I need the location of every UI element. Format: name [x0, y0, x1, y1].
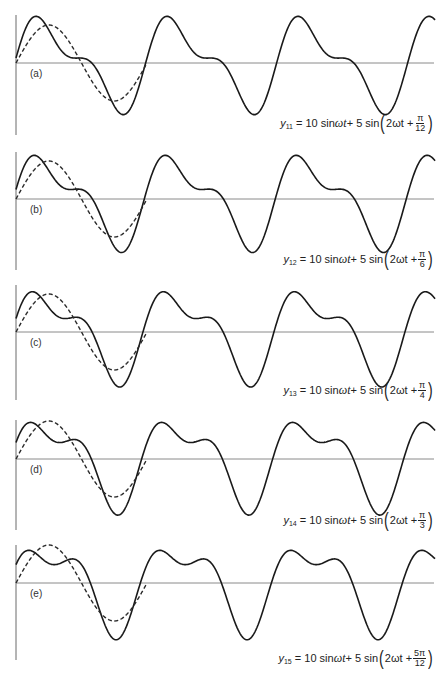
close-paren: ) [428, 648, 433, 668]
equation-lhs: = 10 sin [297, 384, 339, 396]
equation-inner: 2ωt + [390, 514, 417, 526]
equation-omega-t: ωt [339, 252, 351, 267]
equation-inner: 2ωt + [390, 384, 417, 396]
phase-fraction: π12 [414, 114, 426, 133]
resultant-solid-curve [16, 292, 435, 387]
equation-inner: 2ωt + [390, 253, 417, 265]
close-paren: ) [428, 113, 433, 133]
equation-omega-t: ωt [339, 513, 351, 528]
equation-subscript: 11 [286, 123, 293, 130]
equation-plus-term: + 5 sin [350, 253, 383, 265]
equation-omega-t: ωt [339, 383, 351, 398]
equation-plus-term: + 5 sin [345, 652, 378, 664]
open-paren: ( [384, 380, 389, 400]
equation-inner: 2ωt + [385, 652, 412, 664]
fraction-denominator: 12 [414, 124, 426, 133]
equation-omega-t: ωt [335, 116, 347, 131]
fraction-numerator: π [416, 114, 424, 124]
panel-e: (e) [16, 545, 435, 660]
equation-subscript: 14 [289, 520, 297, 527]
equation-label: y15 = 10 sin ωt + 5 sin(2ωt +5π12) [278, 648, 434, 668]
phase-fraction: π3 [418, 511, 426, 530]
equation-label: y11 = 10 sin ωt + 5 sin(2ωt +π12) [280, 113, 434, 133]
open-paren: ( [384, 249, 389, 269]
equation-plus-term: + 5 sin [350, 514, 383, 526]
equation-label: y13 = 10 sin ωt + 5 sin(2ωt +π4) [283, 380, 434, 400]
resultant-solid-curve [16, 550, 435, 639]
phase-fraction: π6 [418, 250, 426, 269]
equation-lhs: = 10 sin [293, 117, 335, 129]
equation-label: y12 = 10 sin ωt + 5 sin(2ωt +π6) [283, 249, 434, 269]
fraction-numerator: π [418, 250, 426, 260]
close-paren: ) [428, 380, 433, 400]
phase-fraction: 5π12 [413, 649, 426, 668]
resultant-solid-curve [16, 16, 435, 114]
panel-label: (b) [30, 204, 42, 215]
panel-label: (c) [30, 337, 42, 348]
equation-lhs: = 10 sin [292, 652, 334, 664]
open-paren: ( [384, 510, 389, 530]
fraction-numerator: 5π [413, 649, 426, 659]
resultant-solid-curve [16, 155, 435, 252]
open-paren: ( [380, 113, 385, 133]
equation-plus-term: + 5 sin [350, 384, 383, 396]
fraction-numerator: π [418, 511, 426, 521]
equation-subscript: 15 [284, 658, 292, 665]
equation-subscript: 13 [289, 390, 297, 397]
close-paren: ) [428, 249, 433, 269]
open-paren: ( [379, 648, 384, 668]
fraction-numerator: π [418, 381, 426, 391]
equation-lhs: = 10 sin [297, 253, 339, 265]
fraction-denominator: 6 [419, 260, 426, 269]
equation-label: y14 = 10 sin ωt + 5 sin(2ωt +π3) [283, 510, 434, 530]
equation-omega-t: ωt [334, 651, 346, 666]
waveform-figure: (a)(b)(c)(d)(e) [0, 0, 448, 687]
panel-label: (a) [30, 68, 42, 79]
equation-plus-term: + 5 sin [347, 117, 380, 129]
fraction-denominator: 3 [419, 521, 426, 530]
resultant-solid-curve [16, 422, 435, 515]
close-paren: ) [428, 510, 433, 530]
fraction-denominator: 12 [414, 659, 426, 668]
fraction-denominator: 4 [419, 391, 426, 400]
equation-lhs: = 10 sin [297, 514, 339, 526]
panel-label: (d) [30, 464, 42, 475]
equation-subscript: 12 [289, 259, 297, 266]
equation-inner: 2ωt + [386, 117, 413, 129]
phase-fraction: π4 [418, 381, 426, 400]
panel-label: (e) [30, 588, 42, 599]
